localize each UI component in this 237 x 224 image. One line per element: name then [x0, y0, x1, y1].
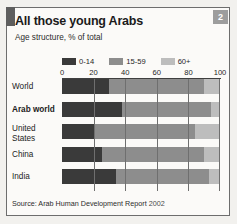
bar-segment-0-14 [62, 102, 122, 117]
x-tick-label-80: 80 [184, 68, 192, 77]
category-label-line: China [12, 150, 33, 160]
legend-item-0-14: 0-14 [62, 57, 94, 66]
legend-label: 0-14 [79, 57, 94, 66]
corner-tab-marker [6, 7, 15, 26]
bar-segment-15-59 [95, 124, 195, 139]
bar-segment-0-14 [62, 169, 116, 184]
legend-swatch-icon [109, 58, 123, 65]
category-label-united-states: UnitedStates [12, 124, 36, 143]
gridline-60 [157, 79, 158, 191]
bar-segment-15-59 [116, 169, 209, 184]
legend-item-15-59: 15-59 [109, 57, 145, 66]
bar-segment-0-14 [62, 147, 102, 162]
bar-row-india [62, 169, 220, 184]
source-note: Source: Arab Human Development Report 20… [12, 199, 165, 208]
bar-row-world [62, 79, 220, 94]
category-label-china: China [12, 150, 33, 160]
plot-area [62, 79, 220, 191]
bar-segment-60plus [204, 79, 220, 94]
category-label-world: World [12, 82, 33, 92]
source-text: Source: Arab Human Development Report [12, 199, 147, 208]
category-labels: WorldArab worldUnitedStatesChinaIndia [12, 79, 62, 191]
gridline-100 [219, 79, 220, 191]
category-label-line: United [12, 124, 36, 134]
legend-label: 60+ [178, 57, 191, 66]
x-tick-label-40: 40 [121, 68, 129, 77]
bar-row-china [62, 147, 220, 162]
chart-title: All those young Arabs [15, 14, 143, 28]
gridline-80 [188, 79, 189, 191]
category-label-line: States [12, 134, 36, 144]
figure-number-badge: 2 [213, 10, 228, 24]
legend-item-60plus: 60+ [161, 57, 191, 66]
bar-segment-0-14 [62, 124, 95, 139]
x-tick-label-0: 0 [60, 68, 64, 77]
chart-screenshot: 2 All those young Arabs Age structure, %… [0, 0, 237, 224]
category-label-line: Arab world [12, 105, 55, 115]
bar-segment-60plus [195, 124, 220, 139]
category-label-india: India [12, 172, 30, 182]
bar-row-arab-world [62, 102, 220, 117]
gridline-20 [94, 79, 95, 191]
bar-row-united-states [62, 124, 220, 139]
legend-label: 15-59 [126, 57, 145, 66]
x-axis-tick-labels: 020406080100 [62, 68, 220, 78]
chart-subtitle: Age structure, % of total [15, 33, 102, 42]
category-label-arab-world: Arab world [12, 105, 55, 115]
category-label-line: India [12, 172, 30, 182]
x-tick-label-100: 100 [214, 68, 227, 77]
bar-segment-60plus [204, 147, 220, 162]
bar-segment-15-59 [122, 102, 210, 117]
legend-swatch-icon [62, 58, 76, 65]
gridline-40 [125, 79, 126, 191]
legend-swatch-icon [161, 58, 175, 65]
x-tick-label-60: 60 [153, 68, 161, 77]
source-year: 2002 [149, 199, 165, 208]
category-label-line: World [12, 82, 33, 92]
bar-segment-0-14 [62, 79, 109, 94]
x-tick-label-20: 20 [89, 68, 97, 77]
chart-legend: 0-1415-5960+ [62, 57, 191, 66]
